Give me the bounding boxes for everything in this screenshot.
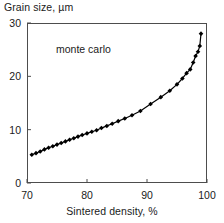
chart-figure: Grain size, µm 0102030708090100monte car… [0, 0, 224, 223]
x-tick-label: 90 [134, 189, 160, 201]
y-tick-label: 30 [0, 17, 21, 29]
x-axis-label: Sintered density, % [0, 205, 224, 218]
y-tick-label: 0 [0, 177, 21, 189]
plot-annotation: monte carlo [56, 43, 111, 55]
x-tick-label: 80 [74, 189, 100, 201]
x-tick-label: 100 [194, 189, 220, 201]
y-tick-label: 10 [0, 124, 21, 136]
y-tick-label: 20 [0, 70, 21, 82]
plot-area [27, 23, 207, 183]
x-tick-label: 70 [14, 189, 40, 201]
y-axis-label: Grain size, µm [4, 1, 73, 14]
